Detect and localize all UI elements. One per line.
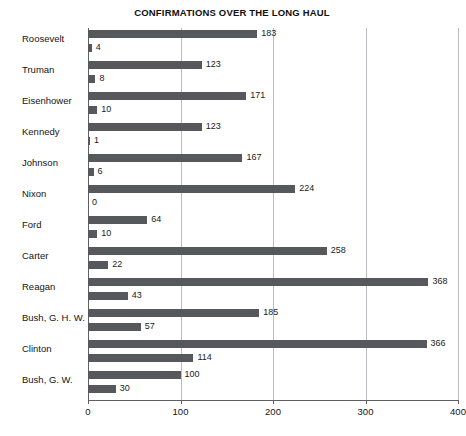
bar-row: 17110	[88, 90, 458, 121]
bar-value-label: 123	[206, 122, 221, 131]
bar-secondary	[88, 44, 92, 52]
bar-primary	[88, 309, 259, 317]
bar-secondary	[88, 354, 193, 362]
bar-value-label: 114	[197, 353, 211, 362]
bar-value-label: 10	[101, 229, 111, 238]
bar-row: 2240	[88, 183, 458, 214]
bar-value-label: 43	[132, 291, 142, 300]
bar-primary	[88, 30, 257, 38]
bar-secondary	[88, 75, 95, 83]
bar-value-label: 366	[431, 339, 446, 348]
bar-secondary	[88, 292, 128, 300]
bar-primary	[88, 340, 427, 348]
bar-value-label: 57	[145, 322, 155, 331]
category-label: Bush, G. W.	[0, 374, 80, 385]
bar-secondary	[88, 106, 97, 114]
category-label: Roosevelt	[0, 33, 80, 44]
x-tick-label: 300	[358, 406, 374, 417]
bar-primary	[88, 92, 246, 100]
bar-primary	[88, 185, 295, 193]
bar-primary	[88, 247, 327, 255]
bar-value-label: 1	[94, 136, 99, 145]
bar-primary	[88, 371, 181, 379]
x-tick-0	[88, 400, 89, 404]
gridline-400	[458, 28, 459, 400]
x-tick-400	[458, 400, 459, 404]
bar-row: 10030	[88, 369, 458, 400]
bar-row: 25822	[88, 245, 458, 276]
category-label: Kennedy	[0, 126, 80, 137]
category-label: Ford	[0, 219, 80, 230]
bar-primary	[88, 123, 202, 131]
bar-primary	[88, 154, 242, 162]
bar-value-label: 6	[98, 167, 103, 176]
bar-value-label: 368	[432, 277, 447, 286]
bar-value-label: 185	[263, 308, 278, 317]
x-tick-100	[181, 400, 182, 404]
bar-value-label: 100	[185, 370, 200, 379]
bar-value-label: 183	[261, 29, 276, 38]
bar-row: 6410	[88, 214, 458, 245]
category-label: Eisenhower	[0, 95, 80, 106]
bar-primary	[88, 61, 202, 69]
bar-row: 1238	[88, 59, 458, 90]
x-tick-label: 100	[173, 406, 189, 417]
bar-secondary	[88, 261, 108, 269]
x-tick-label: 0	[85, 406, 90, 417]
bar-value-label: 30	[120, 384, 130, 393]
bar-row: 36843	[88, 276, 458, 307]
bar-value-label: 171	[250, 91, 265, 100]
bar-row: 18557	[88, 307, 458, 338]
plot-area: 1834123817110123116762240641025822368431…	[88, 28, 458, 400]
category-label: Nixon	[0, 188, 80, 199]
bar-row: 1834	[88, 28, 458, 59]
bar-secondary	[88, 323, 141, 331]
chart-title: CONFIRMATIONS OVER THE LONG HAUL	[0, 7, 464, 18]
bar-value-label: 22	[112, 260, 122, 269]
bar-row: 366114	[88, 338, 458, 369]
category-axis-labels: RooseveltTrumanEisenhowerKennedyJohnsonN…	[0, 28, 84, 400]
bar-secondary	[88, 385, 116, 393]
x-tick-label: 200	[265, 406, 281, 417]
category-label: Bush, G. H. W.	[0, 312, 80, 323]
bar-row: 1231	[88, 121, 458, 152]
bottom-cropped-text	[110, 425, 360, 433]
category-label: Clinton	[0, 343, 80, 354]
bar-primary	[88, 278, 428, 286]
category-label: Carter	[0, 250, 80, 261]
bar-value-label: 0	[92, 198, 97, 207]
category-label: Truman	[0, 64, 80, 75]
x-tick-label: 400	[450, 406, 466, 417]
bar-value-label: 10	[101, 105, 111, 114]
category-label: Reagan	[0, 281, 80, 292]
x-tick-300	[366, 400, 367, 404]
bar-primary	[88, 216, 147, 224]
x-tick-200	[273, 400, 274, 404]
bar-secondary	[88, 137, 90, 145]
bar-value-label: 224	[299, 184, 314, 193]
bar-secondary	[88, 168, 94, 176]
bar-value-label: 4	[96, 43, 101, 52]
bar-value-label: 167	[246, 153, 261, 162]
bar-secondary	[88, 230, 97, 238]
bar-value-label: 64	[151, 215, 161, 224]
bar-row: 1676	[88, 152, 458, 183]
category-label: Johnson	[0, 157, 80, 168]
bar-value-label: 8	[99, 74, 104, 83]
bar-value-label: 258	[331, 246, 346, 255]
bar-value-label: 123	[206, 60, 221, 69]
